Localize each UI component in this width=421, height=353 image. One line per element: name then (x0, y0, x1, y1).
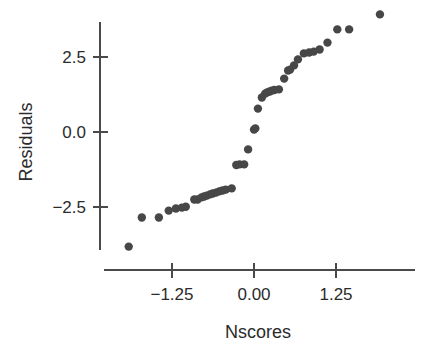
y-tick-label: 2.5 (62, 48, 86, 67)
y-tick-label: 0.0 (62, 123, 86, 142)
data-point (294, 55, 302, 63)
x-axis-title: Nscores (225, 322, 291, 342)
data-point (165, 206, 173, 214)
y-axis-tick-labels: 2.50.0−2.5 (52, 48, 86, 217)
x-tick-label: −1.25 (150, 285, 193, 304)
x-axis-tick-labels: −1.250.001.25 (150, 285, 352, 304)
data-point (182, 203, 190, 211)
y-axis-title: Residuals (16, 102, 36, 181)
data-point (155, 213, 163, 221)
data-point (227, 184, 235, 192)
data-point (315, 45, 323, 53)
data-point (275, 85, 283, 93)
data-points-group (125, 10, 385, 251)
y-tick-label: −2.5 (52, 198, 86, 217)
data-point (345, 25, 353, 33)
qq-plot-canvas: 2.50.0−2.5 −1.250.001.25 Nscores Residua… (0, 0, 421, 353)
data-point (376, 10, 384, 18)
scatter-plot-figure: 2.50.0−2.5 −1.250.001.25 Nscores Residua… (0, 0, 421, 353)
data-point (240, 160, 248, 168)
data-point (244, 145, 252, 153)
data-point (138, 213, 146, 221)
data-point (254, 104, 262, 112)
data-point (333, 25, 341, 33)
data-point (280, 74, 288, 82)
x-tick-label: 1.25 (319, 285, 352, 304)
data-point (323, 38, 331, 46)
x-tick-label: 0.00 (237, 285, 270, 304)
data-point (251, 124, 259, 132)
data-point (125, 242, 133, 250)
